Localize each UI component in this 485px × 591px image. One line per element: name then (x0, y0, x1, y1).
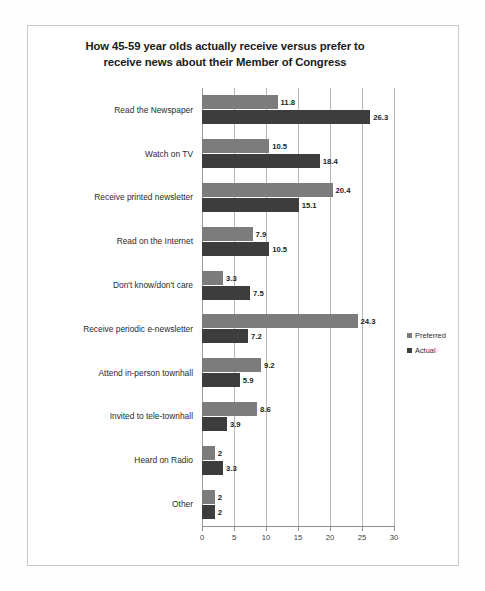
bar-preferred: 2 (202, 490, 215, 504)
bar-actual: 3.9 (202, 417, 227, 431)
chart-card: How 45-59 year olds actually receive ver… (27, 25, 459, 566)
bar-value-label: 3.3 (226, 273, 237, 282)
bar-preferred: 20.4 (202, 183, 333, 197)
bar-value-label: 18.4 (323, 157, 338, 166)
category-label: Receive printed newsletter (94, 192, 193, 202)
bar-value-label: 20.4 (336, 185, 351, 194)
category-label: Read the Newspaper (114, 105, 193, 115)
bar-preferred: 10.5 (202, 139, 269, 153)
bar-preferred: 2 (202, 446, 215, 460)
tick-label-15: 15 (294, 533, 302, 542)
category-label: Receive periodic e-newsletter (83, 324, 193, 334)
bar-value-label: 2 (218, 448, 222, 457)
chart-title: How 45-59 year olds actually receive ver… (50, 38, 400, 71)
bar-preferred: 8.6 (202, 402, 257, 416)
category-label: Other (172, 499, 193, 509)
category-label: Don't know/don't care (113, 280, 193, 290)
bar-value-label: 5.9 (243, 376, 254, 385)
legend-item-preferred[interactable]: Preferred (407, 331, 446, 340)
bar-actual: 7.5 (202, 286, 250, 300)
tick-label-25: 25 (358, 533, 366, 542)
bar-actual: 10.5 (202, 242, 269, 256)
category-label: Heard on Radio (134, 455, 193, 465)
legend-label: Preferred (415, 331, 446, 340)
bar-value-label: 7.2 (251, 332, 262, 341)
bar-row: Receive periodic e-newsletter24.37.2 (202, 307, 394, 351)
category-label: Watch on TV (145, 149, 193, 159)
gridline-30 (394, 88, 395, 526)
bar-value-label: 7.5 (253, 288, 264, 297)
bar-value-label: 3.9 (230, 419, 241, 428)
chart-legend: PreferredActual (407, 331, 446, 361)
bar-value-label: 24.3 (361, 317, 376, 326)
bar-actual: 26.3 (202, 110, 370, 124)
bar-preferred: 7.9 (202, 227, 253, 241)
bar-actual: 2 (202, 505, 215, 519)
bar-value-label: 10.5 (272, 142, 287, 151)
tick-15 (298, 526, 299, 531)
tick-20 (330, 526, 331, 531)
legend-swatch-icon (407, 333, 412, 338)
tick-10 (266, 526, 267, 531)
chart-title-line-1: How 45-59 year olds actually receive ver… (50, 38, 400, 54)
bar-row: Read on the Internet7.910.5 (202, 219, 394, 263)
tick-5 (234, 526, 235, 531)
bar-actual: 15.1 (202, 198, 299, 212)
bar-value-label: 11.8 (281, 98, 296, 107)
bar-row: Invited to tele-townhall8.63.9 (202, 395, 394, 439)
chart-title-line-2: receive news about their Member of Congr… (50, 54, 400, 70)
bar-actual: 7.2 (202, 329, 248, 343)
bar-row: Read the Newspaper11.826.3 (202, 88, 394, 132)
bar-value-label: 7.9 (256, 229, 267, 238)
bar-row: Receive printed newsletter20.415.1 (202, 176, 394, 220)
bar-row: Other22 (202, 482, 394, 526)
category-label: Attend in-person townhall (98, 368, 193, 378)
bar-row: Watch on TV10.518.4 (202, 132, 394, 176)
bar-preferred: 24.3 (202, 314, 358, 328)
category-label: Read on the Internet (117, 236, 193, 246)
bar-preferred: 11.8 (202, 95, 278, 109)
bar-value-label: 3.3 (226, 463, 237, 472)
bar-preferred: 9.2 (202, 358, 261, 372)
tick-label-0: 0 (200, 533, 204, 542)
bar-value-label: 10.5 (272, 244, 287, 253)
plot-area: Read the Newspaper11.826.3Watch on TV10.… (202, 88, 394, 526)
bar-actual: 3.3 (202, 461, 223, 475)
bar-actual: 18.4 (202, 154, 320, 168)
tick-30 (394, 526, 395, 531)
tick-label-5: 5 (232, 533, 236, 542)
legend-swatch-icon (407, 348, 412, 353)
category-label: Invited to tele-townhall (110, 411, 193, 421)
bar-rows: Read the Newspaper11.826.3Watch on TV10.… (202, 88, 394, 526)
tick-label-20: 20 (326, 533, 334, 542)
bar-row: Attend in-person townhall9.25.9 (202, 351, 394, 395)
bar-row: Heard on Radio23.3 (202, 438, 394, 482)
tick-25 (362, 526, 363, 531)
bar-row: Don't know/don't care3.37.5 (202, 263, 394, 307)
bar-value-label: 8.6 (260, 404, 271, 413)
legend-label: Actual (415, 346, 436, 355)
tick-label-10: 10 (262, 533, 270, 542)
bar-value-label: 15.1 (302, 200, 317, 209)
tick-0 (202, 526, 203, 531)
bar-value-label: 9.2 (264, 361, 275, 370)
bar-actual: 5.9 (202, 373, 240, 387)
bar-preferred: 3.3 (202, 271, 223, 285)
tick-label-30: 30 (390, 533, 398, 542)
bar-value-label: 2 (218, 507, 222, 516)
legend-item-actual[interactable]: Actual (407, 346, 446, 355)
bar-value-label: 26.3 (373, 113, 388, 122)
bar-value-label: 2 (218, 492, 222, 501)
